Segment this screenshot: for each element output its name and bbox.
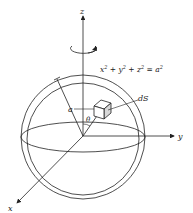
x-axis [17,136,83,203]
y-axis-label: y [177,132,183,141]
sphere-diagram: z y x x2 + y2 + z2 = a2 a θ dS [0,0,193,213]
rotation-arrow-icon [71,46,98,53]
ds-label: dS [138,94,149,103]
z-axis-label: z [79,7,85,16]
angle-arc [83,124,90,126]
x-axis-label: x [8,204,13,213]
radius-label: a [68,105,73,114]
angle-label: θ [86,116,91,124]
ds-leader [108,100,138,110]
sphere-equation: x2 + y2 + z2 = a2 [100,64,163,74]
surface-element-cube [94,100,111,119]
